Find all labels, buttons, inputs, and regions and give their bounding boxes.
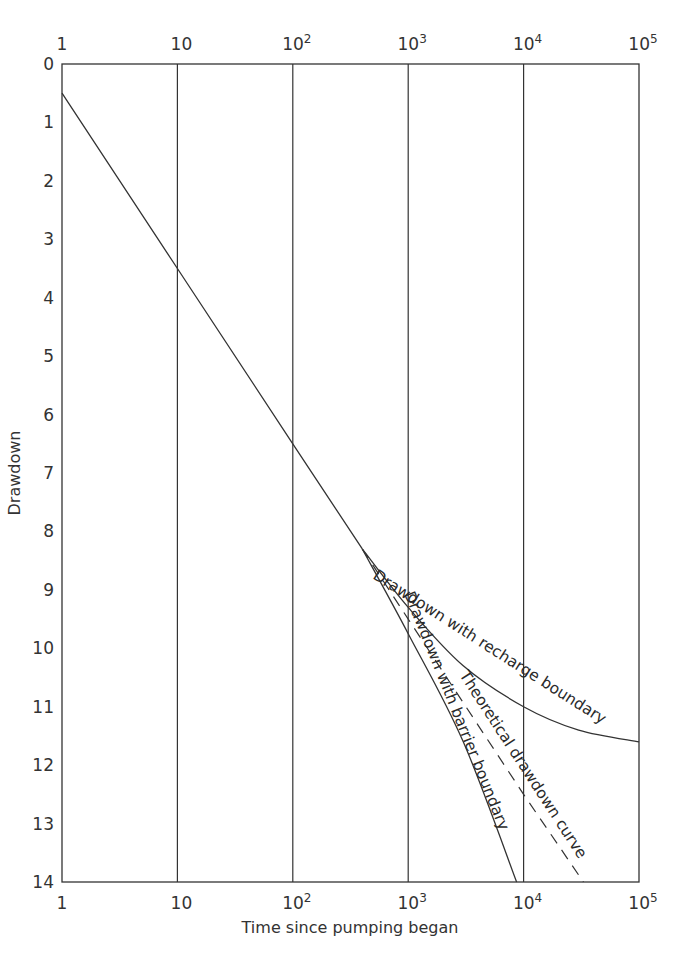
svg-text:105: 105: [628, 891, 657, 913]
svg-text:3: 3: [43, 229, 54, 249]
svg-text:104: 104: [513, 891, 542, 913]
svg-text:12: 12: [32, 755, 54, 775]
svg-text:1: 1: [57, 893, 68, 913]
svg-text:102: 102: [282, 32, 311, 54]
y-axis-label: Drawdown: [5, 431, 24, 516]
svg-text:9: 9: [43, 580, 54, 600]
svg-text:103: 103: [398, 32, 427, 54]
svg-text:103: 103: [398, 891, 427, 913]
svg-text:8: 8: [43, 521, 54, 541]
svg-text:1: 1: [57, 34, 68, 54]
svg-text:6: 6: [43, 405, 54, 425]
svg-text:13: 13: [32, 814, 54, 834]
bottom-x-tick-labels: 110102103104105: [57, 891, 658, 913]
svg-text:102: 102: [282, 891, 311, 913]
svg-text:1: 1: [43, 112, 54, 132]
svg-text:104: 104: [513, 32, 542, 54]
svg-text:11: 11: [32, 697, 54, 717]
y-tick-labels: 01234567891011121314: [32, 54, 54, 892]
svg-text:2: 2: [43, 171, 54, 191]
top-x-tick-labels: 110102103104105: [57, 32, 658, 54]
theoretical-curve-dashed: [362, 549, 583, 882]
plot-frame: [62, 64, 639, 882]
svg-text:10: 10: [32, 638, 54, 658]
drawdown-curves: [62, 93, 639, 882]
theoretical-curve-solid: [62, 93, 362, 549]
svg-text:10: 10: [171, 893, 193, 913]
svg-text:14: 14: [32, 872, 54, 892]
svg-text:4: 4: [43, 288, 54, 308]
svg-text:5: 5: [43, 346, 54, 366]
svg-text:0: 0: [43, 54, 54, 74]
drawdown-chart: 110102103104105 110102103104105 01234567…: [0, 0, 681, 954]
x-axis-label: Time since pumping began: [241, 918, 459, 937]
svg-text:7: 7: [43, 463, 54, 483]
svg-text:10: 10: [171, 34, 193, 54]
svg-text:105: 105: [628, 32, 657, 54]
